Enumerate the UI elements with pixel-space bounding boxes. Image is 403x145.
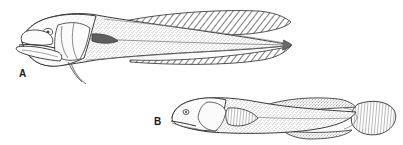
figure-a-fish bbox=[16, 11, 292, 84]
figure-b-fish bbox=[171, 98, 396, 139]
figure-b-pupil bbox=[185, 111, 187, 113]
figure-b-caudal-fin bbox=[351, 101, 396, 135]
figure-a-caudal-tip bbox=[282, 40, 292, 50]
figure-a-label: A bbox=[19, 69, 27, 79]
illustration-plate: A B bbox=[0, 0, 403, 145]
figure-a-pelvic-filament-2 bbox=[71, 63, 86, 84]
plate-canvas bbox=[0, 0, 403, 145]
figure-b-label: B bbox=[154, 117, 162, 127]
